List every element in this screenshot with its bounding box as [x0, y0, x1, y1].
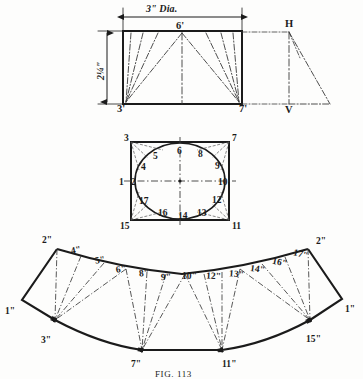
plan-point-10: 10	[218, 178, 228, 188]
development-point-d11: 11"	[222, 360, 237, 370]
plan-point-3: 3	[124, 134, 129, 144]
development-point-d6: 6"	[115, 264, 126, 275]
plan-point-2: 2	[131, 178, 136, 188]
development-group	[22, 249, 342, 350]
plan-point-9: 9	[215, 162, 220, 172]
development-point-d1l: 1"	[5, 307, 15, 317]
development-point-d8: 8"	[139, 269, 150, 279]
development-point-d2l: 2"	[42, 236, 52, 246]
development-point-d2r: 2"	[316, 237, 326, 247]
drawing-canvas	[0, 0, 363, 379]
development-point-d3l: 3"	[41, 336, 51, 346]
plan-point-16: 16	[158, 209, 168, 219]
development-point-d7: 7"	[131, 360, 141, 370]
plan-point-11: 11	[232, 222, 241, 232]
elevation-diameter-dimension: 3" Dia.	[146, 4, 177, 14]
plan-point-1: 1	[119, 178, 124, 188]
plan-point-4: 4	[141, 163, 146, 173]
elevation-group	[98, 8, 330, 104]
figure-sheet: 3" Dia. 2¼" 6' 3' 7' H V 123456789101112…	[0, 0, 363, 379]
plan-point-14: 14	[178, 212, 188, 222]
elevation-apex-label: 6'	[176, 21, 184, 32]
auxiliary-vertical-label: V	[285, 105, 293, 116]
development-point-d5: 5"	[94, 255, 106, 266]
plan-point-17: 17	[139, 197, 149, 207]
elevation-corner-right-label: 7'	[239, 104, 247, 115]
development-point-d1r: 1"	[345, 305, 355, 315]
development-point-d9: 9"	[161, 273, 172, 283]
plan-point-15: 15	[120, 222, 130, 232]
plan-point-7: 7	[232, 134, 237, 144]
development-point-d10: 10"	[182, 272, 197, 282]
plan-point-12: 12	[212, 196, 222, 206]
development-point-d15r: 15"	[306, 335, 321, 345]
development-point-d14: 14"	[249, 264, 265, 276]
elevation-corner-left-label: 3'	[117, 104, 125, 115]
plan-point-6: 6	[177, 147, 182, 157]
elevation-height-dimension: 2¼"	[96, 62, 106, 80]
development-point-d13: 13"	[229, 269, 245, 280]
plan-point-13: 13	[197, 209, 207, 219]
figure-caption: FIG. 113	[155, 370, 192, 379]
plan-point-8: 8	[198, 150, 203, 160]
auxiliary-horizontal-label: H	[285, 19, 293, 30]
plan-point-5: 5	[153, 152, 158, 162]
development-point-d12: 12"	[206, 272, 222, 282]
